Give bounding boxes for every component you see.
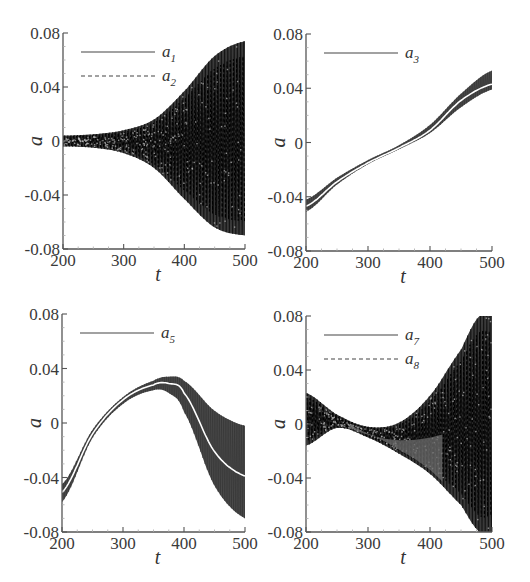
y-tick-label: -0.04 bbox=[25, 186, 61, 205]
panel-a5: -0.08-0.0400.040.08200300400500taa5 bbox=[23, 305, 258, 568]
x-tick-label: 400 bbox=[171, 534, 197, 553]
y-axis-label: a bbox=[24, 136, 46, 146]
x-tick-label: 300 bbox=[111, 251, 137, 270]
y-tick-label: 0.08 bbox=[29, 305, 59, 324]
y-tick-label: 0.08 bbox=[273, 25, 303, 44]
legend-label: a7 bbox=[405, 325, 420, 347]
y-tick-label: 0.08 bbox=[30, 24, 60, 43]
y-tick-label: 0 bbox=[295, 134, 304, 153]
figure: -0.08-0.0400.040.08200300400500taa1a2 -0… bbox=[0, 0, 530, 582]
x-tick-label: 200 bbox=[293, 253, 319, 272]
x-tick-label: 300 bbox=[110, 534, 136, 553]
plot-area bbox=[306, 314, 492, 535]
y-tick-label: 0 bbox=[51, 414, 60, 433]
legend-label: a8 bbox=[405, 349, 420, 371]
x-tick-label: 500 bbox=[479, 253, 505, 272]
x-tick-label: 200 bbox=[50, 251, 76, 270]
amplitude-band bbox=[306, 71, 492, 212]
plot-area bbox=[62, 377, 245, 519]
x-tick-label: 300 bbox=[355, 534, 381, 553]
y-tick-label: -0.04 bbox=[268, 188, 304, 207]
x-tick-label: 200 bbox=[293, 534, 319, 553]
y-tick-label: 0.04 bbox=[273, 79, 303, 98]
legend-label: a2 bbox=[162, 66, 177, 88]
x-axis-label: t bbox=[155, 263, 161, 285]
y-tick-label: 0.04 bbox=[30, 78, 60, 97]
y-tick-label: 0.04 bbox=[29, 360, 59, 379]
y-axis-label: a bbox=[267, 419, 289, 429]
y-tick-label: 0.04 bbox=[273, 361, 303, 380]
legend-label: a5 bbox=[161, 323, 176, 345]
y-tick-label: -0.04 bbox=[268, 469, 304, 488]
x-tick-label: 400 bbox=[172, 251, 198, 270]
x-tick-label: 200 bbox=[49, 534, 75, 553]
x-axis-label: t bbox=[400, 546, 406, 568]
x-tick-label: 500 bbox=[232, 251, 258, 270]
legend-label: a1 bbox=[162, 42, 176, 64]
legend-label: a3 bbox=[405, 43, 420, 65]
panel-a3: -0.08-0.0400.040.08200300400500taa3 bbox=[267, 25, 505, 287]
y-axis-label: a bbox=[23, 418, 45, 428]
x-tick-label: 400 bbox=[417, 534, 443, 553]
x-axis-label: t bbox=[155, 546, 161, 568]
plot-area bbox=[63, 41, 245, 235]
x-tick-label: 500 bbox=[479, 534, 505, 553]
x-axis-label: t bbox=[400, 265, 406, 287]
y-tick-label: 0 bbox=[295, 415, 304, 434]
y-tick-label: 0 bbox=[52, 132, 61, 151]
y-tick-label: -0.04 bbox=[24, 469, 60, 488]
panel-a1-a2: -0.08-0.0400.040.08200300400500taa1a2 bbox=[24, 24, 258, 285]
plot-area bbox=[306, 71, 492, 212]
y-axis-label: a bbox=[267, 138, 289, 148]
x-tick-label: 400 bbox=[417, 253, 443, 272]
x-tick-label: 500 bbox=[232, 534, 258, 553]
x-tick-label: 300 bbox=[355, 253, 381, 272]
panel-a7-a8: -0.08-0.0400.040.08200300400500taa7a8 bbox=[267, 307, 505, 568]
y-tick-label: 0.08 bbox=[273, 307, 303, 326]
